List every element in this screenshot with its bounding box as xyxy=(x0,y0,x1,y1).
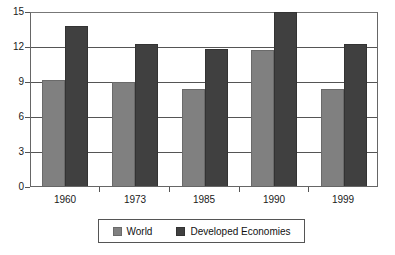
legend-swatch-icon-developed-economies xyxy=(176,227,185,236)
legend-swatch-icon-world xyxy=(113,227,122,236)
legend-entry-developed-economies: Developed Economies xyxy=(176,226,290,237)
plot-area xyxy=(30,12,378,187)
x-axis-category-label-1990: 1990 xyxy=(244,195,304,205)
legend-entry-world: World xyxy=(113,226,153,237)
bar-world-1973 xyxy=(112,82,135,186)
x-axis-tickmark xyxy=(169,187,170,192)
x-axis-category-label-1985: 1985 xyxy=(174,195,234,205)
bar-developed-economies-1985 xyxy=(205,49,228,186)
y-axis-tick-label: 15 xyxy=(0,7,24,17)
bar-chart: 15 12 9 6 3 0 1960 1973 1985 1 xyxy=(0,0,395,255)
y-axis-tick-label: 6 xyxy=(0,112,24,122)
x-axis-tickmark xyxy=(239,187,240,192)
bar-world-1960 xyxy=(42,80,65,186)
x-axis-category-label-1960: 1960 xyxy=(35,195,95,205)
legend: World Developed Economies xyxy=(98,219,305,243)
x-axis-category-label-1973: 1973 xyxy=(105,195,165,205)
bar-developed-economies-1973 xyxy=(135,44,158,186)
legend-label-world: World xyxy=(127,226,153,237)
y-axis-tick-label: 0 xyxy=(0,182,24,192)
legend-label-developed-economies: Developed Economies xyxy=(190,226,290,237)
y-axis-tick-label: 12 xyxy=(0,42,24,52)
y-axis-tick-label: 9 xyxy=(0,77,24,87)
y-axis-tickmark xyxy=(25,187,30,188)
y-axis-tick-label: 3 xyxy=(0,147,24,157)
bar-world-1990 xyxy=(251,50,274,186)
x-axis-category-label-1999: 1999 xyxy=(313,195,373,205)
bar-developed-economies-1990 xyxy=(274,12,297,186)
x-axis-tickmark xyxy=(308,187,309,192)
x-axis-tickmark xyxy=(99,187,100,192)
bar-world-1985 xyxy=(182,89,205,186)
bar-world-1999 xyxy=(321,89,344,186)
bar-developed-economies-1960 xyxy=(65,26,88,186)
bar-developed-economies-1999 xyxy=(344,44,367,186)
